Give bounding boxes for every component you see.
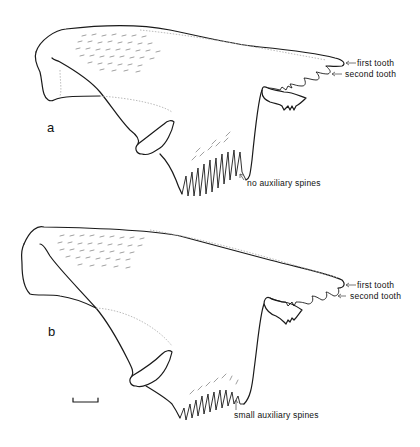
annotation-second-tooth-b: second tooth xyxy=(350,291,401,301)
panel-label-a: a xyxy=(47,120,54,135)
annotation-spines-b: small auxiliary spines xyxy=(234,410,319,420)
comb-setae-a xyxy=(192,132,230,160)
mandible-a-drawing xyxy=(35,26,356,196)
comb-setae-b xyxy=(190,374,238,394)
mandible-b-drawing xyxy=(22,227,357,420)
scale-bar xyxy=(73,398,98,402)
annotation-first-tooth-a: first tooth xyxy=(357,58,394,68)
setae-field-a xyxy=(76,34,160,72)
annotation-spines-a: no auxiliary spines xyxy=(247,178,321,188)
setae-field-b xyxy=(58,235,144,268)
annotation-second-tooth-a: second tooth xyxy=(345,69,396,79)
annotation-first-tooth-b: first tooth xyxy=(357,280,394,290)
panel-label-b: b xyxy=(48,324,55,339)
